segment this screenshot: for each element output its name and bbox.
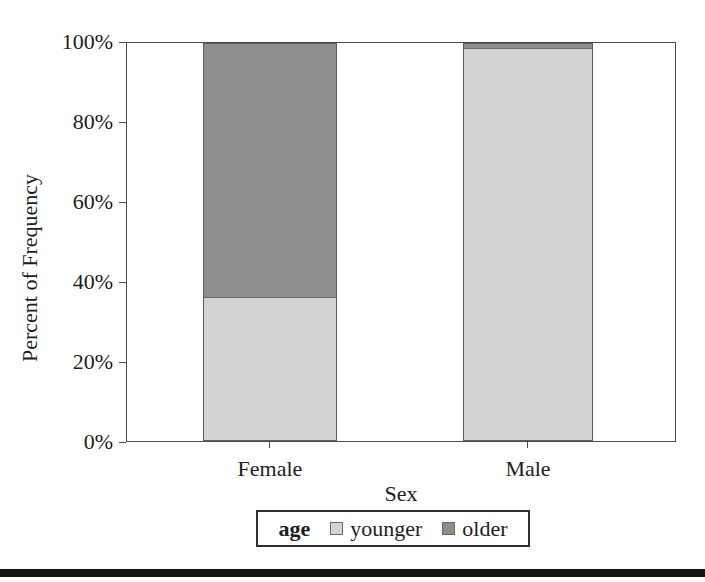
y-tick-label-20: 20% (73, 351, 113, 373)
y-tick-label-80: 80% (73, 111, 113, 133)
x-axis-title: Sex (126, 481, 676, 507)
younger-swatch-icon (330, 522, 343, 535)
legend-item-younger: younger (330, 518, 422, 540)
legend-label-older: older (462, 518, 507, 540)
y-tick-label-60: 60% (73, 191, 113, 213)
legend-item-older: older (442, 518, 507, 540)
category-label-male: Male (458, 456, 598, 482)
y-tick-mark-100 (119, 42, 126, 43)
plot-area (126, 42, 676, 442)
bar-female (203, 43, 337, 441)
bar-female-older-segment (204, 44, 336, 297)
x-tick-mark-female (269, 442, 270, 448)
y-tick-label-0: 0% (84, 431, 113, 453)
legend-title: age (278, 518, 310, 540)
y-axis-title: Percent of Frequency (17, 174, 43, 362)
legend-box: age younger older (256, 510, 530, 547)
x-tick-mark-male (527, 442, 528, 448)
bar-male-younger-segment (464, 48, 592, 440)
older-swatch-icon (442, 522, 455, 535)
page-bottom-rule (0, 569, 705, 577)
bar-male (463, 43, 593, 441)
bar-female-younger-segment (204, 297, 336, 440)
y-tick-mark-20 (119, 362, 126, 363)
y-tick-mark-80 (119, 122, 126, 123)
y-tick-label-40: 40% (73, 271, 113, 293)
book-page-figure: Percent of Frequency 100% 80% 60% 40% 20… (0, 0, 705, 582)
y-tick-label-100: 100% (62, 31, 113, 53)
y-tick-mark-40 (119, 282, 126, 283)
legend-label-younger: younger (350, 518, 422, 540)
category-label-female: Female (200, 456, 340, 482)
y-tick-mark-0 (119, 442, 126, 443)
y-tick-mark-60 (119, 202, 126, 203)
